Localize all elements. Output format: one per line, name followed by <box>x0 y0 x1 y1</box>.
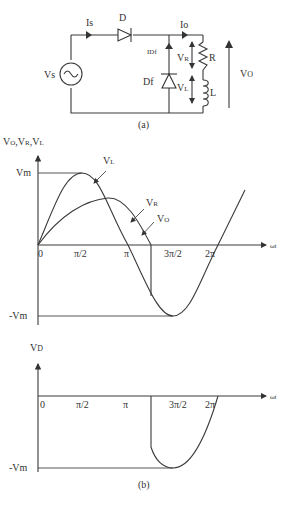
plot2-tick-pi2: π/2 <box>76 399 89 410</box>
vr-arrow-down-icon <box>189 63 195 69</box>
plot1-tick-3pi2: 3π/2 <box>164 248 182 259</box>
plot1-vm-label: Vm <box>16 167 31 178</box>
plot2-ylabel: VD <box>30 342 43 353</box>
plot1-xlabel: ωt <box>270 242 277 250</box>
plot2-tick-0: 0 <box>40 399 45 410</box>
resistor-icon <box>199 42 207 70</box>
current-arrow-is-icon <box>86 31 92 39</box>
current-arrow-idf-icon <box>165 43 173 49</box>
label-vs: Vs <box>44 69 55 80</box>
plot-diode-voltage: VD ωt -Vm 0 π/2 π 3π/2 2π <box>9 342 277 473</box>
diode-df-icon <box>162 74 176 88</box>
label-is: Is <box>86 17 93 28</box>
label-idf: IDf <box>147 48 157 56</box>
current-arrow-io-icon <box>182 31 188 39</box>
plot1-ylabel: VO,VR,VL <box>3 136 44 147</box>
vl-arrow-down-icon <box>189 98 195 104</box>
caption-b: (b) <box>138 479 150 491</box>
plot2-neg-vm-label: -Vm <box>9 462 28 473</box>
plot1-neg-vm-label: -Vm <box>9 310 28 321</box>
label-vl: VL <box>177 82 189 93</box>
label-r: R <box>209 52 216 63</box>
plot2-xlabel: ωt <box>270 393 277 401</box>
plot1-tick-pi2: π/2 <box>74 248 87 259</box>
pointer-vl <box>94 171 106 183</box>
label-df: Df <box>143 76 154 87</box>
plot2-tick-3pi2: 3π/2 <box>169 399 187 410</box>
label-vo: VO <box>240 68 253 79</box>
plot-output-voltages: VO,VR,VL ωt Vm -Vm 0 π/2 π 3π/2 2π VL VR… <box>3 136 277 325</box>
vo-arrow-icon <box>225 40 233 48</box>
inductor-icon <box>203 80 208 106</box>
label-d: D <box>119 12 126 23</box>
label-l: L <box>210 87 216 98</box>
annotation-vr: VR <box>146 197 158 208</box>
caption-a: (a) <box>138 119 149 131</box>
annotation-vl: VL <box>103 155 115 166</box>
label-io: Io <box>180 19 188 30</box>
vl-arrow-up-icon <box>189 75 195 81</box>
plot2-tick-pi: π <box>123 399 128 410</box>
plot1-tick-0: 0 <box>38 248 43 259</box>
sine-symbol-icon <box>64 71 78 77</box>
annotation-vo: VO <box>157 213 169 224</box>
plot1-tick-pi: π <box>124 248 129 259</box>
figure: Vs Is D Io IDf Df R L VR VL <box>0 0 293 505</box>
pointer-vo <box>142 222 154 235</box>
label-vr: VR <box>177 52 189 63</box>
vr-arrow-up-icon <box>189 41 195 47</box>
circuit-diagram: Vs Is D Io IDf Df R L VR VL <box>44 12 253 131</box>
plot2-tick-2pi: 2π <box>205 399 215 410</box>
diode-d-icon <box>118 29 131 41</box>
